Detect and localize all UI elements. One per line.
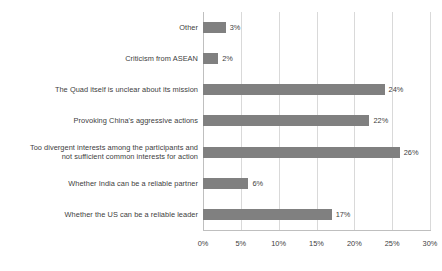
category-label: Other (2, 23, 198, 32)
bar-value-label: 22% (373, 116, 388, 125)
bar-container: 3% (203, 12, 240, 43)
bar-row: Criticism from ASEAN2% (0, 43, 442, 74)
bar-row: The Quad itself is unclear about its mis… (0, 74, 442, 105)
bar-value-label: 2% (222, 54, 233, 63)
bar-value-label: 26% (404, 148, 419, 157)
bar[interactable] (203, 178, 248, 189)
bar[interactable] (203, 22, 226, 33)
category-label: The Quad itself is unclear about its mis… (2, 85, 198, 94)
bar[interactable] (203, 84, 385, 95)
bar-container: 2% (203, 43, 233, 74)
x-tick-label: 25% (372, 239, 412, 248)
category-label: Provoking China's aggressive actions (2, 116, 198, 125)
bar-value-label: 6% (252, 179, 263, 188)
x-axis-tick-labels: 0%5%10%15%20%25%30% (0, 239, 442, 253)
bar-row: Too divergent interests among the partic… (0, 137, 442, 168)
bar-row: Other3% (0, 12, 442, 43)
bar-container: 24% (203, 74, 403, 105)
x-tick-label: 20% (334, 239, 374, 248)
bar-value-label: 17% (336, 210, 351, 219)
bar-value-label: 24% (389, 85, 404, 94)
category-label: Whether the US can be a reliable leader (2, 210, 198, 219)
bar-rows: Other3%Criticism from ASEAN2%The Quad it… (0, 12, 442, 230)
x-tick-label: 10% (259, 239, 299, 248)
x-tick-label: 5% (221, 239, 261, 248)
x-tick-label: 30% (410, 239, 442, 248)
bar[interactable] (203, 115, 369, 126)
bar[interactable] (203, 147, 400, 158)
category-label: Too divergent interests among the partic… (2, 143, 198, 161)
bar[interactable] (203, 209, 332, 220)
bar-container: 26% (203, 137, 419, 168)
bar-row: Whether the US can be a reliable leader1… (0, 199, 442, 230)
bar[interactable] (203, 53, 218, 64)
x-axis-line (203, 230, 431, 231)
bar-row: Whether India can be a reliable partner6… (0, 168, 442, 199)
bar-container: 22% (203, 105, 388, 136)
bar-value-label: 3% (230, 23, 241, 32)
category-label: Whether India can be a reliable partner (2, 179, 198, 188)
bar-container: 17% (203, 199, 350, 230)
bar-container: 6% (203, 168, 263, 199)
category-label: Criticism from ASEAN (2, 54, 198, 63)
bar-chart: Other3%Criticism from ASEAN2%The Quad it… (0, 0, 442, 271)
bar-row: Provoking China's aggressive actions22% (0, 105, 442, 136)
x-tick-label: 15% (297, 239, 337, 248)
x-tick-label: 0% (183, 239, 223, 248)
